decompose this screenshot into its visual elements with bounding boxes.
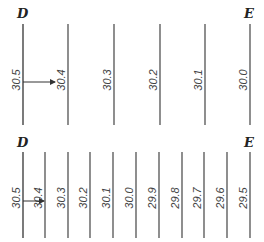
- point-e-label: E: [243, 6, 255, 21]
- isobar-value: 30.4: [32, 187, 44, 208]
- isobar-value: 29.6: [214, 186, 226, 209]
- isobar-value: 29.9: [146, 187, 158, 209]
- isobar-value: 29.8: [169, 186, 181, 209]
- isobar-value: 30.4: [55, 69, 67, 90]
- isobar-value: 30.3: [101, 68, 113, 90]
- isobar-value: 29.7: [191, 186, 203, 209]
- isobar-value: 30.2: [77, 187, 89, 208]
- isobar-value: 30.1: [100, 187, 112, 208]
- bottom-panel: 30.530.430.330.230.130.029.929.829.729.6…: [10, 135, 255, 238]
- isobar-diagram: 30.530.430.330.230.130.0DE 30.530.430.33…: [0, 0, 264, 242]
- point-d-label: D: [16, 135, 29, 150]
- isobar-value: 30.5: [10, 68, 22, 90]
- isobar-value: 30.0: [237, 68, 249, 90]
- isobar-value: 29.5: [237, 186, 249, 209]
- top-panel: 30.530.430.330.230.130.0DE: [10, 6, 255, 125]
- isobar-value: 30.3: [55, 186, 67, 208]
- isobar-value: 30.5: [10, 186, 22, 208]
- isobar-value: 30.1: [192, 69, 204, 90]
- isobar-value: 30.2: [147, 69, 159, 90]
- point-e-label: E: [243, 135, 255, 150]
- isobar-value: 30.0: [123, 186, 135, 208]
- point-d-label: D: [16, 6, 29, 21]
